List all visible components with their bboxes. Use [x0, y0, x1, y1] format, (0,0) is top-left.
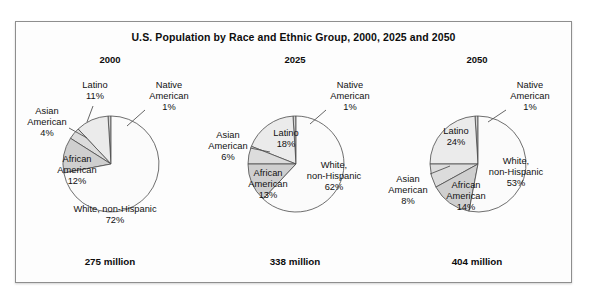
panel-total-population: 275 million — [17, 256, 203, 267]
figure-frame: U.S. Population by Race and Ethnic Group… — [15, 21, 572, 283]
panel-year-label: 2025 — [202, 54, 388, 65]
pie-chart-2050: NativeAmerican1%Latino24%AsianAmerican8%… — [384, 66, 570, 252]
slice-label-native-american: NativeAmerican1% — [510, 80, 549, 112]
slice-label-latino: Latino18% — [273, 128, 298, 149]
panel-year-label: 2000 — [17, 54, 203, 65]
slice-label-native-american: NativeAmerican1% — [330, 80, 369, 112]
pie-panel-2050: 2050NativeAmerican1%Latino24%AsianAmeric… — [384, 54, 570, 276]
panel-total-population: 338 million — [202, 256, 388, 267]
pie-panel-2000: 2000NativeAmerican1%Latino11%AsianAmeric… — [17, 54, 203, 276]
slice-label-white-non-hispanic: White, non-Hispanic72% — [73, 204, 157, 225]
pie-panel-2025: 2025NativeAmerican1%Latino18%AsianAmeric… — [202, 54, 388, 276]
slice-label-asian-american: AsianAmerican4% — [27, 106, 66, 138]
slice-label-asian-american: AsianAmerican8% — [388, 174, 427, 206]
slice-label-native-american: NativeAmerican1% — [149, 80, 188, 112]
pie-chart-2000: NativeAmerican1%Latino11%AsianAmerican4%… — [17, 66, 203, 252]
panel-year-label: 2050 — [384, 54, 570, 65]
slice-label-latino: Latino24% — [443, 126, 468, 147]
pie-chart-2025: NativeAmerican1%Latino18%AsianAmerican6%… — [202, 66, 388, 252]
panel-total-population: 404 million — [384, 256, 570, 267]
figure-title: U.S. Population by Race and Ethnic Group… — [16, 31, 571, 43]
slice-label-latino: Latino11% — [82, 80, 107, 101]
slice-label-asian-american: AsianAmerican6% — [208, 130, 247, 162]
